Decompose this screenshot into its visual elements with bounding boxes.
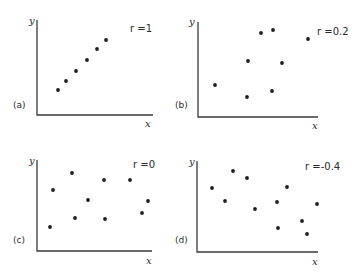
panel-c-x-axis-label: x [146,255,152,266]
data-point [103,217,107,221]
data-point [128,178,132,182]
data-point [74,69,78,73]
data-point [86,198,90,202]
panel-c-axes [37,160,152,251]
scatter-figure: y x (a) r =1 y x (b) r =0.2 y x (c) r =0… [0,0,357,277]
data-point [276,226,280,230]
panel-d-label: (d) [175,235,188,245]
panel-b-y-axis-label: y [188,16,195,27]
data-point [275,200,279,204]
panel-a-x-axis-label: x [145,118,151,129]
panel-d-r-annotation: r =-0.4 [305,161,340,172]
panel-b-label: (b) [175,100,188,110]
data-point [70,171,74,175]
data-point [231,169,235,173]
panel-d-axes [197,161,318,252]
panel-d-points [210,169,319,236]
data-point [259,31,263,35]
data-point [104,38,108,42]
data-point [73,216,77,220]
data-point [48,225,52,229]
panel-a: y x (a) r =1 [13,15,153,129]
data-point [146,199,150,203]
data-point [315,202,319,206]
data-point [210,186,214,190]
data-point [223,199,227,203]
data-point [246,59,250,63]
data-point [270,89,274,93]
data-point [285,185,289,189]
panel-a-axes [37,20,153,115]
data-point [213,83,217,87]
panel-d-y-axis-label: y [188,156,195,167]
panel-a-y-axis-label: y [28,15,35,26]
panel-d: y x (d) r =-0.4 [175,156,340,267]
data-point [300,219,304,223]
panel-b: y x (b) r =0.2 [175,16,349,131]
data-point [95,47,99,51]
data-point [85,58,89,62]
panel-c: y x (c) r =0 [13,155,155,266]
data-point [64,79,68,83]
data-point [245,95,249,99]
panel-c-y-axis-label: y [28,155,35,166]
panel-b-r-annotation: r =0.2 [317,26,349,37]
data-point [306,37,310,41]
data-point [305,232,309,236]
panel-d-x-axis-label: x [312,256,318,267]
panel-c-label: (c) [13,235,25,245]
data-point [51,188,55,192]
panel-b-axes [198,22,318,117]
data-point [253,207,257,211]
panel-a-label: (a) [13,100,26,110]
panel-c-points [48,171,150,229]
panel-a-points [56,38,108,92]
data-point [140,211,144,215]
data-point [56,88,60,92]
data-point [271,28,275,32]
panel-c-r-annotation: r =0 [133,159,155,170]
panel-b-points [213,28,310,99]
panel-b-x-axis-label: x [312,120,318,131]
data-point [102,178,106,182]
data-point [280,61,284,65]
panel-a-r-annotation: r =1 [130,23,152,34]
data-point [245,176,249,180]
